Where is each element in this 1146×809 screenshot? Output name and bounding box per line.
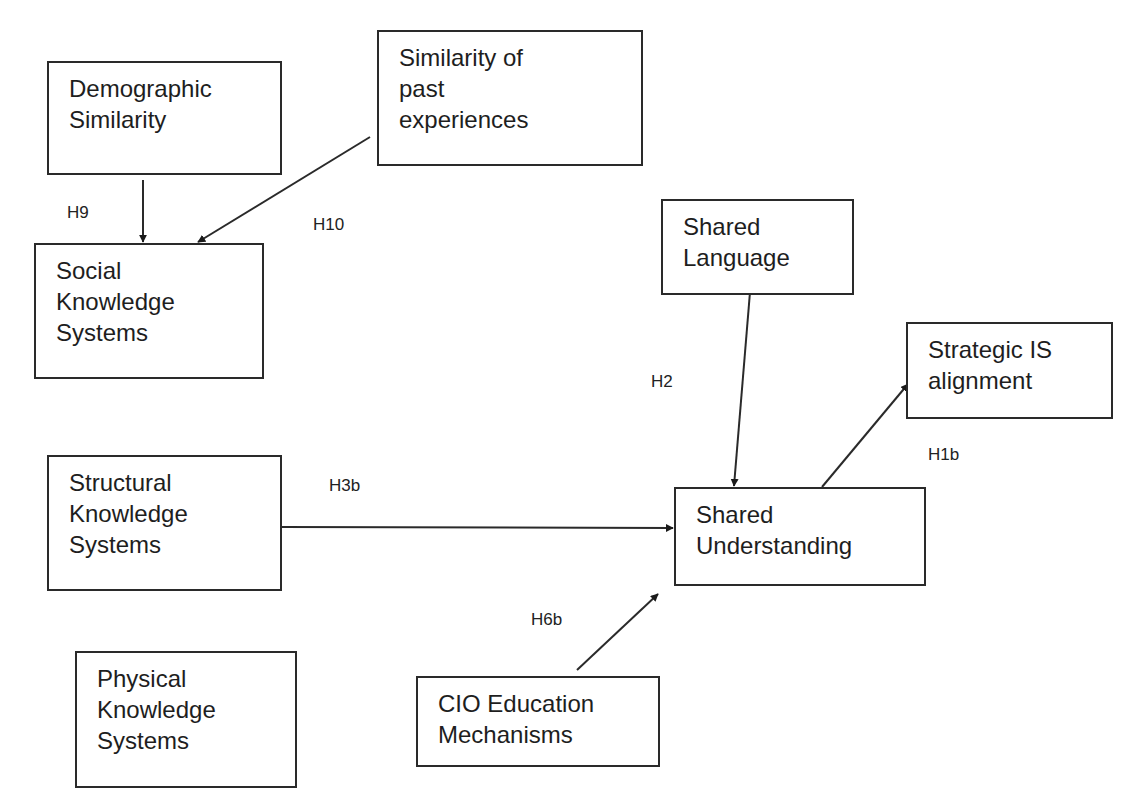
node-strategic-is-alignment: Strategic IS alignment [906, 322, 1113, 419]
edge-label-h9: H9 [67, 203, 89, 223]
node-text-line: Physical [97, 663, 279, 694]
edge-label-h10: H10 [313, 215, 344, 235]
diagram-canvas: Demographic Similarity Similarity of pas… [0, 0, 1146, 809]
edge-label-h2: H2 [651, 372, 673, 392]
node-text-line: Similarity [69, 104, 264, 135]
node-text-line: Systems [56, 317, 246, 348]
node-text-line: experiences [399, 104, 625, 135]
node-structural-knowledge-systems: Structural Knowledge Systems [47, 455, 282, 591]
edge-arrow-h2 [734, 292, 750, 486]
node-text-line: Structural [69, 467, 264, 498]
node-text-line: Social [56, 255, 246, 286]
node-shared-understanding: Shared Understanding [674, 487, 926, 586]
node-text-line: Mechanisms [438, 719, 642, 750]
edge-label-h6b: H6b [531, 610, 562, 630]
node-text-line: alignment [928, 365, 1095, 396]
node-text-line: Strategic IS [928, 334, 1095, 365]
node-text-line: Knowledge [69, 498, 264, 529]
node-text-line: Systems [97, 725, 279, 756]
node-text-line: Shared [683, 211, 836, 242]
node-text-line: Demographic [69, 73, 264, 104]
node-cio-education-mechanisms: CIO Education Mechanisms [416, 676, 660, 767]
node-text-line: Language [683, 242, 836, 273]
node-similarity-of-past-experiences: Similarity of past experiences [377, 30, 643, 166]
node-text-line: Understanding [696, 530, 908, 561]
node-demographic-similarity: Demographic Similarity [47, 61, 282, 175]
node-text-line: Knowledge [97, 694, 279, 725]
node-shared-language: Shared Language [661, 199, 854, 295]
edge-label-h1b: H1b [928, 445, 959, 465]
node-text-line: Shared [696, 499, 908, 530]
node-social-knowledge-systems: Social Knowledge Systems [34, 243, 264, 379]
node-text-line: Knowledge [56, 286, 246, 317]
edge-label-h3b: H3b [329, 476, 360, 496]
node-text-line: Systems [69, 529, 264, 560]
node-physical-knowledge-systems: Physical Knowledge Systems [75, 651, 297, 788]
node-text-line: Similarity of [399, 42, 625, 73]
edge-arrow-h3b [281, 527, 673, 528]
node-text-line: CIO Education [438, 688, 642, 719]
edge-arrow-h6b [577, 594, 658, 670]
edge-arrow-h1b [822, 384, 908, 487]
node-text-line: past [399, 73, 625, 104]
